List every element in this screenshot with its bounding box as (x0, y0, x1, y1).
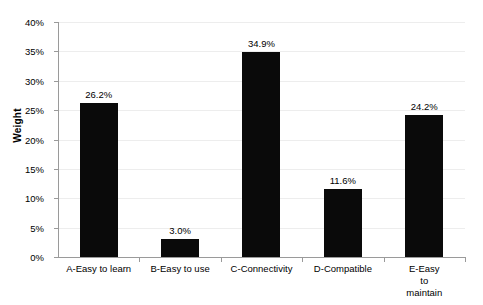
x-axis-category-label: A-Easy to learn (66, 263, 131, 275)
x-axis-tick (221, 257, 222, 262)
bar-value-label: 34.9% (248, 38, 275, 49)
y-axis-tick-label: 15% (25, 163, 44, 174)
bar-value-label: 3.0% (169, 225, 191, 236)
bar-group: 24.2% (384, 22, 465, 257)
y-axis-tick-label: 10% (25, 193, 44, 204)
bar-value-label: 24.2% (411, 101, 438, 112)
bar[interactable] (161, 239, 199, 257)
bar[interactable] (80, 103, 118, 257)
bar-chart: Weight 0%5%10%15%20%25%30%35%40% 26.2%3.… (0, 0, 483, 305)
y-axis-tick-label: 20% (25, 134, 44, 145)
x-axis-category-label: C-Connectivity (231, 263, 293, 275)
y-axis-tick-label: 35% (25, 46, 44, 57)
x-axis-tick-labels: A-Easy to learnB-Easy to useC-Connectivi… (58, 263, 465, 303)
plot-area: 26.2%3.0%34.9%11.6%24.2% (58, 22, 465, 257)
bar[interactable] (242, 52, 280, 257)
x-axis-ticks (58, 257, 465, 262)
bar-group: 34.9% (221, 22, 302, 257)
x-axis-category-label: D-Compatible (314, 263, 372, 275)
y-axis-tick-label: 40% (25, 17, 44, 28)
y-axis-tick-label: 25% (25, 105, 44, 116)
bar[interactable] (405, 115, 443, 257)
y-axis-tick-label: 5% (30, 222, 44, 233)
bar-group: 3.0% (139, 22, 220, 257)
y-axis-tick-labels: 0%5%10%15%20%25%30%35%40% (0, 22, 52, 257)
bar-value-label: 26.2% (85, 89, 112, 100)
x-axis-tick (139, 257, 140, 262)
bar-group: 11.6% (302, 22, 383, 257)
x-axis-category-label: E-Easy to maintain (404, 263, 445, 299)
x-axis-tick (384, 257, 385, 262)
bars-layer: 26.2%3.0%34.9%11.6%24.2% (58, 22, 465, 257)
bar-group: 26.2% (58, 22, 139, 257)
y-axis-tick-label: 0% (30, 252, 44, 263)
x-axis-category-label: B-Easy to use (151, 263, 210, 275)
x-axis-tick (465, 257, 466, 262)
bar-value-label: 11.6% (330, 175, 356, 186)
bar[interactable] (324, 189, 362, 257)
x-axis-tick (302, 257, 303, 262)
y-axis-tick-label: 30% (25, 75, 44, 86)
